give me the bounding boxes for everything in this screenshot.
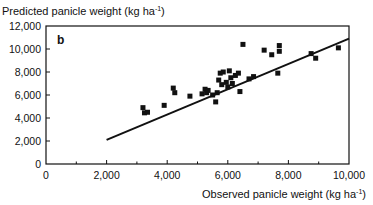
y-tick-label: 8,000 [15, 66, 41, 78]
x-tick-label: 10,000 [333, 169, 365, 181]
data-point [206, 88, 211, 93]
data-point [236, 71, 241, 76]
y-tick-label: 0 [35, 158, 41, 170]
x-axis-title: Observed panicle weight (kg ha-1) [202, 188, 366, 200]
x-tick-label: 4,000 [154, 169, 180, 181]
regression-line [107, 39, 349, 140]
panel-label: b [57, 33, 64, 47]
data-point [224, 80, 229, 85]
y-tick-label: 12,000 [9, 20, 41, 32]
y-tick-label: 6,000 [15, 89, 41, 101]
data-point [171, 86, 176, 91]
data-point [227, 68, 232, 73]
data-point [240, 42, 245, 47]
data-point [237, 89, 242, 94]
data-point [140, 105, 145, 110]
data-point [275, 71, 280, 76]
data-point [269, 52, 274, 57]
data-point [336, 45, 341, 50]
data-point [230, 81, 235, 86]
y-tick-label: 2,000 [15, 135, 41, 147]
scatter-chart: Predicted panicle weight (kg ha-1) b 02,… [0, 0, 373, 205]
data-point [187, 94, 192, 99]
data-point [277, 43, 282, 48]
x-tick-label: 8,000 [275, 169, 301, 181]
data-point [228, 75, 233, 80]
data-point [162, 103, 167, 108]
data-point [219, 82, 224, 87]
data-point [313, 56, 318, 61]
plot-frame [46, 26, 349, 164]
data-point [277, 49, 282, 54]
data-point [216, 78, 221, 83]
data-point [221, 70, 226, 75]
data-point [145, 110, 150, 115]
y-tick-label: 4,000 [15, 112, 41, 124]
y-tick-label: 10,000 [9, 43, 41, 55]
x-tick-label: 2,000 [93, 169, 119, 181]
x-tick-label: 6,000 [215, 169, 241, 181]
y-axis-title: Predicted panicle weight (kg ha-1) [2, 5, 165, 17]
data-point [262, 48, 267, 53]
data-point [213, 99, 218, 104]
data-point [200, 91, 205, 96]
data-point [172, 90, 177, 95]
x-tick-label: 0 [43, 169, 49, 181]
